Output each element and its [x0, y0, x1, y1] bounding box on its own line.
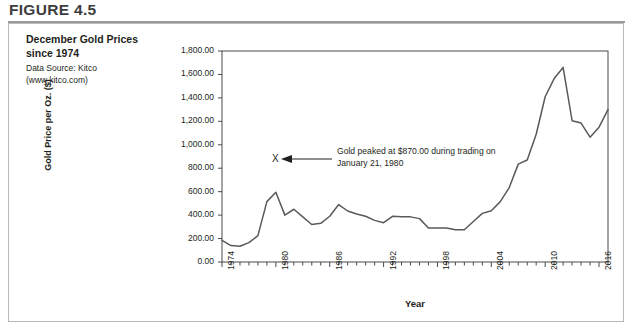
- peak-marker-x: X: [272, 153, 279, 164]
- y-tick-label: 1,400.00: [154, 92, 214, 102]
- y-tick-label: 600.00: [154, 186, 214, 196]
- x-tick-label: 1998: [441, 251, 451, 270]
- y-tick-label: 1,600.00: [154, 68, 214, 78]
- x-axis-title: Year: [222, 298, 608, 309]
- y-tick-label: 0.00: [154, 256, 214, 266]
- y-tick-label: 200.00: [154, 233, 214, 243]
- x-tick-label: 1986: [334, 251, 344, 270]
- x-tick-label: 2016: [603, 251, 613, 270]
- y-tick-label: 1,000.00: [154, 139, 214, 149]
- x-tick-label: 1974: [226, 251, 236, 270]
- y-tick-label: 400.00: [154, 209, 214, 219]
- y-tick-label: 1,800.00: [154, 45, 214, 55]
- x-tick-label: 1980: [280, 251, 290, 270]
- figure-root: FIGURE 4.5 December Gold Prices since 19…: [0, 0, 633, 331]
- chart-svg: [0, 0, 633, 331]
- y-tick-label: 800.00: [154, 162, 214, 172]
- peak-annotation-text: Gold peaked at $870.00 during trading on…: [337, 146, 497, 169]
- x-tick-label: 2010: [549, 251, 559, 270]
- chart-plot-area: Gold Price per Oz. ($) Year 0.00200.0040…: [0, 0, 633, 331]
- x-tick-label: 2004: [495, 251, 505, 270]
- y-axis-title: Gold Price per Oz. ($): [43, 50, 53, 200]
- x-tick-label: 1992: [388, 251, 398, 270]
- y-tick-label: 1,200.00: [154, 115, 214, 125]
